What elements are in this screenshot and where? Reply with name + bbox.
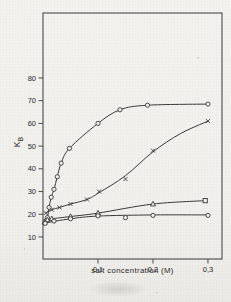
data-point-circle bbox=[123, 216, 127, 220]
scan-speckle bbox=[24, 248, 25, 250]
data-point-circle bbox=[52, 187, 56, 191]
y-tick-label: 60 bbox=[28, 119, 36, 128]
y-axis-title-main: K bbox=[12, 141, 22, 147]
y-tick-label: 40 bbox=[28, 164, 36, 173]
data-point-x bbox=[123, 177, 127, 181]
x-axis-title: salt concentration (M) bbox=[43, 266, 222, 275]
data-point-circle bbox=[206, 102, 210, 106]
data-point-x bbox=[206, 119, 210, 123]
y-axis-title: KB bbox=[12, 125, 26, 159]
scan-speckle bbox=[156, 292, 158, 293]
y-tick-label: 80 bbox=[28, 74, 36, 83]
plot-frame bbox=[43, 13, 222, 259]
line-chart: 10203040506070800,10,20,3 bbox=[0, 0, 231, 302]
data-point-circle bbox=[67, 146, 71, 150]
data-point-circle bbox=[49, 195, 53, 199]
y-tick-label: 10 bbox=[28, 233, 36, 242]
data-point-circle bbox=[96, 214, 100, 218]
data-point-triangle bbox=[150, 201, 155, 206]
data-point-circle bbox=[52, 219, 56, 223]
data-point-circle bbox=[206, 213, 210, 217]
data-point-circle bbox=[145, 103, 149, 107]
data-point-circle bbox=[55, 175, 59, 179]
data-point-circle bbox=[68, 217, 72, 221]
y-tick-label: 50 bbox=[28, 142, 36, 151]
data-point-circle bbox=[59, 161, 63, 165]
scan-smudge bbox=[88, 281, 148, 297]
scan-speckle bbox=[197, 57, 199, 59]
scanned-figure-page: 10203040506070800,10,20,3 KB salt concen… bbox=[0, 0, 231, 302]
data-point-x bbox=[44, 211, 48, 215]
sigmoid-crosses-line bbox=[46, 121, 208, 213]
data-point-circle bbox=[96, 121, 100, 125]
y-tick-label: 30 bbox=[28, 187, 36, 196]
y-axis-title-subscript: B bbox=[17, 137, 24, 142]
data-point-circle bbox=[151, 213, 155, 217]
data-point-square bbox=[203, 199, 207, 203]
y-tick-label: 70 bbox=[28, 96, 36, 105]
y-tick-label: 20 bbox=[28, 210, 36, 219]
data-point-circle bbox=[43, 221, 47, 225]
data-point-circle bbox=[118, 108, 122, 112]
